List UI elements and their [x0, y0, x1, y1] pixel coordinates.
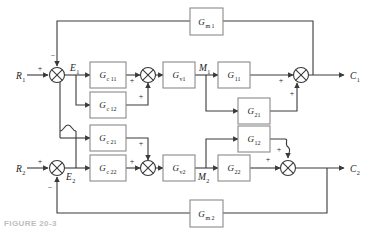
transfer-function-blocks: Gc 11Gc 12Gc 21Gc 22Gv1Gv2G11G21G12G22Gm… — [90, 8, 270, 227]
sum-C1 — [294, 68, 309, 83]
wire-e1-branch-to-gc12 — [76, 75, 90, 105]
sum-C2-sign-plus-1: + — [277, 145, 282, 154]
wire-gm1-to-sum-r1 — [57, 21, 190, 66]
block-gm2: Gm 2 — [190, 200, 223, 227]
diagram-canvas: Gc 11Gc 12Gc 21Gc 22Gv1Gv2G11G21G12G22Gm… — [0, 0, 373, 234]
signal-label-r1: R1 — [15, 71, 25, 83]
sum-M1 — [141, 68, 156, 83]
block-g22: G22 — [218, 155, 250, 181]
sum-M2 — [141, 161, 156, 176]
wire-hop-arc — [60, 125, 76, 131]
sum-R1-sign-minus-1: − — [51, 51, 56, 60]
sum-C1-sign-plus-1: + — [290, 89, 295, 98]
sum-M1-sign-plus-0: + — [130, 76, 135, 85]
block-gc21: Gc 21 — [90, 125, 126, 151]
block-gc11: Gc 11 — [90, 62, 126, 88]
sum-R2-sign-minus-1: − — [48, 183, 53, 192]
block-gv2: Gv2 — [163, 155, 195, 181]
block-g11: G11 — [218, 62, 250, 88]
signal-label-c1: C1 — [350, 71, 360, 83]
signal-label-r2: R2 — [15, 164, 25, 176]
sum-C2 — [281, 161, 296, 176]
sum-R2-sign-plus-0: + — [38, 157, 43, 166]
sum-M2-sign-plus-0: + — [130, 157, 135, 166]
sum-R2 — [50, 161, 65, 176]
block-gv1: Gv1 — [163, 62, 195, 88]
wire-gm2-to-sum-r2 — [57, 177, 190, 213]
sum-M1-sign-plus-1: + — [139, 92, 144, 101]
signal-label-m1: M1 — [198, 63, 210, 75]
signal-label-m2: M2 — [197, 172, 209, 184]
sum-R1-sign-plus-0: + — [38, 64, 43, 73]
sum-M2-sign-plus-1: + — [139, 139, 144, 148]
figure-caption: FIGURE 20-3 — [4, 219, 57, 230]
block-gc22: Gc 22 — [90, 155, 126, 181]
block-gc12: Gc 12 — [90, 92, 126, 118]
block-g12: G12 — [238, 126, 270, 152]
block-g21: G21 — [238, 98, 270, 124]
sum-C2-sign-plus-0: + — [266, 155, 271, 164]
block-diagram-figure: Gc 11Gc 12Gc 21Gc 22Gv1Gv2G11G21G12G22Gm… — [0, 0, 373, 234]
signal-label-e2: E2 — [65, 172, 75, 184]
signal-label-c2: C2 — [350, 164, 360, 176]
block-gm1: Gm 1 — [190, 8, 223, 35]
sum-C1-sign-plus-0: + — [279, 76, 284, 85]
signal-label-e1: E1 — [69, 63, 79, 75]
sum-R1 — [50, 68, 65, 83]
wire-gc12-to-summ1 — [126, 83, 148, 105]
signal-wires — [27, 21, 344, 213]
